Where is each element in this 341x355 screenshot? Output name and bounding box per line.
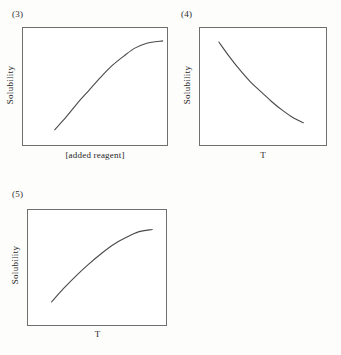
panel-5-tag: (5)	[12, 189, 23, 199]
figure-canvas: (3) Solubility [added reagent] (4) Solub…	[0, 0, 341, 355]
panel-4-tag: (4)	[181, 9, 192, 19]
panel-4-plot-box	[199, 27, 327, 146]
panel-4: (4) Solubility T	[178, 0, 341, 175]
panel-3-tag: (3)	[12, 9, 23, 19]
panel-5-curve-svg	[28, 210, 166, 325]
panel-3-curve	[55, 41, 163, 130]
panel-5-curve	[51, 230, 152, 302]
panel-4-curve-svg	[200, 28, 326, 145]
panel-3-curve-svg	[23, 28, 167, 145]
panel-4-x-axis-label: T	[218, 150, 308, 161]
panel-4-y-axis-label: Solubility	[182, 59, 192, 111]
panel-3-plot-box	[22, 27, 168, 146]
panel-3-y-axis-label: Solubility	[5, 59, 15, 111]
panel-5-plot-box	[27, 209, 167, 326]
panel-3-x-axis-label: [added reagent]	[45, 150, 145, 161]
panel-5-y-axis-label: Solubility	[10, 239, 20, 291]
panel-5: (5) Solubility T	[0, 182, 180, 355]
panel-5-x-axis-label: T	[50, 329, 145, 340]
panel-3: (3) Solubility [added reagent]	[0, 0, 180, 175]
panel-4-curve	[219, 42, 303, 123]
